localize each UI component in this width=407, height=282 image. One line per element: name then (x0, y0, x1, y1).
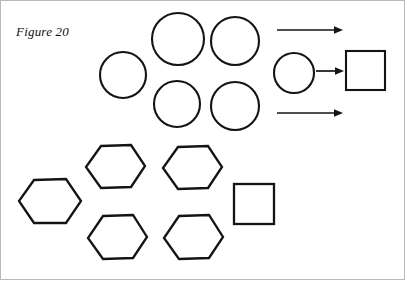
hexagon-group (19, 145, 223, 259)
circle-bottom-left[interactable] (154, 81, 200, 127)
square-top[interactable] (346, 51, 385, 90)
arrow-bottom (277, 109, 343, 117)
arrow-group (277, 26, 344, 117)
arrow-top-head (334, 26, 343, 34)
hexagon-bottom-right[interactable] (164, 215, 223, 259)
hexagon-bottom-left[interactable] (88, 215, 147, 259)
circle-bottom-right[interactable] (211, 82, 259, 130)
figure-canvas: Figure 20 (0, 0, 407, 282)
square-bottom[interactable] (234, 184, 274, 224)
circle-left[interactable] (100, 52, 146, 98)
arrow-middle (316, 67, 344, 75)
hexagon-left[interactable] (19, 179, 81, 223)
arrow-bottom-head (334, 109, 343, 117)
circle-top-left[interactable] (152, 13, 204, 65)
circle-top-right[interactable] (211, 17, 259, 65)
figure-shapes-layer (0, 0, 407, 282)
hexagon-top-left[interactable] (86, 145, 145, 188)
arrow-top (277, 26, 343, 34)
arrow-middle-head (335, 67, 344, 75)
hexagon-top-right[interactable] (163, 146, 222, 189)
circle-selected[interactable] (274, 53, 314, 93)
